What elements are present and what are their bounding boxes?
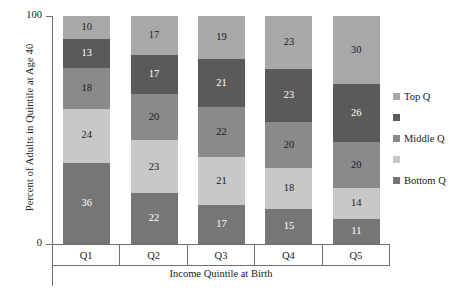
bar-segment[interactable]: 21 xyxy=(198,59,245,107)
bar-slot-q3: 1921222117 xyxy=(188,16,255,244)
legend-item-label: Middle Q xyxy=(404,133,445,144)
bar-segment-value: 23 xyxy=(284,37,295,48)
y-axis-title: Percent of Adults in Quintile at Age 40 xyxy=(24,13,35,243)
bar-segment[interactable]: 23 xyxy=(265,69,312,122)
bar-segment[interactable]: 21 xyxy=(198,157,245,205)
bar-segment-value: 17 xyxy=(216,219,227,230)
y-tick-mark-top xyxy=(46,16,52,17)
bar-segment[interactable]: 17 xyxy=(131,55,178,94)
bar-segment[interactable]: 26 xyxy=(333,84,380,143)
x-axis-label-q1: Q1 xyxy=(52,245,119,265)
legend-swatch-icon xyxy=(393,114,400,121)
bar-segment[interactable]: 10 xyxy=(63,16,110,39)
bar-slot-q1: 1013182436 xyxy=(53,16,120,244)
bar-segment-value: 21 xyxy=(216,78,227,89)
bar-segment-value: 26 xyxy=(351,108,362,119)
bar-segment[interactable]: 13 xyxy=(63,39,110,68)
bar-segment[interactable]: 19 xyxy=(198,16,245,59)
x-axis-label-q3: Q3 xyxy=(187,245,254,265)
bar-slot-q2: 1717202322 xyxy=(120,16,187,244)
bar-segment[interactable]: 20 xyxy=(131,94,178,140)
legend-item-middle-q[interactable]: Middle Q xyxy=(393,128,457,149)
bar-segment[interactable]: 17 xyxy=(198,205,245,244)
bar-segment-value: 36 xyxy=(81,198,92,209)
bar-segment-value: 20 xyxy=(149,112,160,123)
bar-segment-value: 14 xyxy=(351,198,362,209)
plot-bars: 1013182436171720232219212221172323201815… xyxy=(53,16,390,244)
x-axis-category-band: Q1Q2Q3Q4Q5 xyxy=(52,244,390,266)
stacked-bar-q3[interactable]: 1921222117 xyxy=(198,16,245,244)
bar-slot-q5: 3026201411 xyxy=(323,16,390,244)
y-axis-tick-100: 100 xyxy=(4,9,42,20)
bar-segment[interactable]: 20 xyxy=(265,122,312,168)
bar-segment[interactable]: 22 xyxy=(198,107,245,157)
bar-segment[interactable]: 23 xyxy=(265,16,312,69)
bar-segment-value: 21 xyxy=(216,176,227,187)
bar-segment[interactable]: 22 xyxy=(131,193,178,244)
bar-segment-value: 13 xyxy=(81,48,92,59)
bar-segment-value: 24 xyxy=(81,130,92,141)
bar-segment[interactable]: 11 xyxy=(333,219,380,244)
legend-item-label: Bottom Q xyxy=(404,175,446,186)
bar-segment[interactable]: 18 xyxy=(63,68,110,109)
bar-segment-value: 10 xyxy=(81,22,92,33)
bar-segment-value: 15 xyxy=(284,221,295,232)
bar-segment-value: 17 xyxy=(149,30,160,41)
x-axis-label-q5: Q5 xyxy=(322,245,389,265)
bar-segment-value: 23 xyxy=(284,90,295,101)
legend-item-3[interactable] xyxy=(393,149,457,170)
bar-segment[interactable]: 36 xyxy=(63,163,110,244)
bar-segment-value: 20 xyxy=(284,140,295,151)
bar-slot-q4: 2323201815 xyxy=(255,16,322,244)
x-axis-title: Income Quintile at Birth xyxy=(52,268,390,279)
stacked-bar-q5[interactable]: 3026201411 xyxy=(333,16,380,244)
legend-swatch-icon xyxy=(393,93,400,100)
legend-swatch-icon xyxy=(393,135,400,142)
legend-swatch-icon xyxy=(393,177,400,184)
bar-segment-value: 17 xyxy=(149,69,160,80)
bar-segment-value: 22 xyxy=(149,213,160,224)
stacked-bar-q1[interactable]: 1013182436 xyxy=(63,16,110,244)
legend-item-bottom-q[interactable]: Bottom Q xyxy=(393,170,457,191)
bar-segment[interactable]: 17 xyxy=(131,16,178,55)
bar-segment-value: 19 xyxy=(216,32,227,43)
bar-segment[interactable]: 15 xyxy=(265,209,312,244)
x-axis-label-q2: Q2 xyxy=(119,245,186,265)
x-axis-label-q4: Q4 xyxy=(254,245,321,265)
bar-segment-value: 30 xyxy=(351,45,362,56)
bar-segment[interactable]: 14 xyxy=(333,188,380,220)
legend-item-top-q[interactable]: Top Q xyxy=(393,86,457,107)
bar-segment[interactable]: 18 xyxy=(265,168,312,209)
stacked-bar-chart: Percent of Adults in Quintile at Age 40 … xyxy=(0,0,458,294)
bar-segment-value: 20 xyxy=(351,160,362,171)
bar-segment[interactable]: 30 xyxy=(333,16,380,84)
bar-segment-value: 18 xyxy=(284,183,295,194)
bar-segment-value: 22 xyxy=(216,127,227,138)
stacked-bar-q4[interactable]: 2323201815 xyxy=(265,16,312,244)
legend-swatch-icon xyxy=(393,156,400,163)
legend-item-1[interactable] xyxy=(393,107,457,128)
legend-item-label: Top Q xyxy=(404,91,430,102)
bar-segment[interactable]: 23 xyxy=(131,140,178,193)
y-axis-tick-0: 0 xyxy=(4,237,42,248)
bar-segment[interactable]: 24 xyxy=(63,109,110,163)
bar-segment-value: 18 xyxy=(81,83,92,94)
stacked-bar-q2[interactable]: 1717202322 xyxy=(131,16,178,244)
bar-segment-value: 11 xyxy=(351,226,361,237)
chart-legend: Top QMiddle QBottom Q xyxy=(393,86,457,191)
bar-segment[interactable]: 20 xyxy=(333,142,380,187)
bar-segment-value: 23 xyxy=(149,162,160,173)
